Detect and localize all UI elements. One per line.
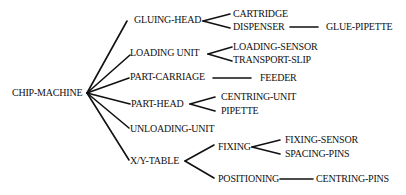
node-dispenser: DISPENSER <box>233 22 285 32</box>
node-loading-sensor: LOADING-SENSOR <box>233 42 317 52</box>
node-positioning: POSITIONING <box>218 174 279 184</box>
node-transport-slip: TRANSPORT-SLIP <box>233 55 311 65</box>
node-feeder: FEEDER <box>260 73 297 83</box>
node-cartridge: CARTRIDGE <box>233 9 288 19</box>
node-pipette: PIPETTE <box>221 106 259 116</box>
node-glue-pipette: GLUE-PIPETTE <box>326 22 392 32</box>
node-centring-pins: CENTRING-PINS <box>316 174 389 184</box>
node-gluing-head: GLUING-HEAD <box>134 15 201 25</box>
node-centring-unit: CENTRING-UNIT <box>221 92 296 102</box>
node-part-carriage: PART-CARRIAGE <box>130 72 205 82</box>
node-spacing-pins: SPACING-PINS <box>285 149 349 159</box>
node-fixing-sensor: FIXING-SENSOR <box>285 135 358 145</box>
node-xy-table: X/Y-TABLE <box>130 156 179 166</box>
node-part-head: PART-HEAD <box>131 99 183 109</box>
node-unloading-unit: UNLOADING-UNIT <box>130 124 214 134</box>
edge-root-loading-unit <box>87 55 130 93</box>
node-loading-unit: LOADING UNIT <box>130 48 200 58</box>
node-chip-machine: CHIP-MACHINE <box>12 88 82 98</box>
edge-root-gluing-head <box>87 21 127 93</box>
edge-root-xy-table <box>87 93 129 160</box>
node-fixing: FIXING <box>218 142 251 152</box>
